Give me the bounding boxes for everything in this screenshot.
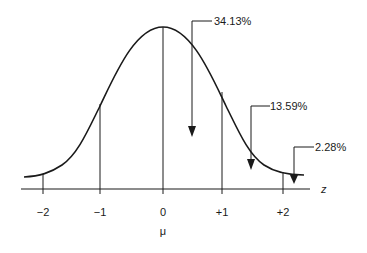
mean-label: μ	[160, 225, 166, 237]
label-34-13: 34.13%	[214, 15, 252, 27]
arrow-down-icon	[247, 159, 255, 170]
annotation-13: 13.59%	[247, 100, 308, 170]
normal-curve-diagram: 34.13% 13.59% 2.28% −2 −1 0 +1 +2 μ z	[0, 0, 367, 253]
tick-label-plus1: +1	[216, 206, 229, 218]
tick-label-0: 0	[160, 206, 166, 218]
axis-variable-label: z	[320, 183, 327, 195]
tick-label-plus2: +2	[277, 206, 290, 218]
label-2-28: 2.28%	[315, 141, 346, 153]
arrow-down-icon	[188, 126, 196, 137]
label-13-59: 13.59%	[270, 100, 308, 112]
tick-label-minus2: −2	[37, 206, 50, 218]
tick-label-minus1: −1	[94, 206, 107, 218]
arrow-down-icon	[290, 175, 298, 184]
annotation-34: 34.13%	[188, 15, 252, 137]
annotation-2: 2.28%	[290, 141, 346, 184]
bell-curve	[24, 27, 304, 177]
